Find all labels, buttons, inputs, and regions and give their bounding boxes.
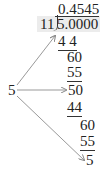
arrow-up-icon — [17, 36, 55, 85]
arrows — [0, 0, 101, 176]
arrow-down-icon — [17, 96, 84, 160]
